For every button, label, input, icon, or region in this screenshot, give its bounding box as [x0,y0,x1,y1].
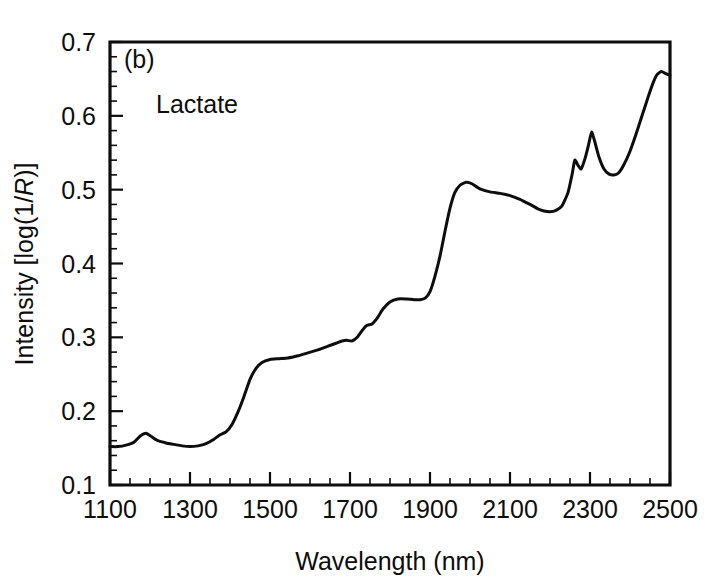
y-tick-label: 0.4 [61,250,96,278]
y-tick-label: 0.3 [61,323,96,351]
x-tick-label: 2100 [482,495,538,523]
x-tick-label: 1500 [242,495,298,523]
y-tick-label: 0.5 [61,176,96,204]
y-tick-label: 0.6 [61,102,96,130]
x-tick-label: 2500 [642,495,698,523]
x-tick-label: 1900 [402,495,458,523]
x-tick-label: 1100 [83,495,137,523]
y-tick-label: 0.2 [61,397,96,425]
series-annotation-label: Lactate [156,90,238,118]
x-tick-label: 2300 [562,495,618,523]
figure-panel-b: 11001300150017001900210023002500 0.10.20… [0,0,713,583]
y-tick-label: 0.7 [61,28,96,56]
spectrum-chart: 11001300150017001900210023002500 0.10.20… [0,0,713,583]
y-tick-label: 0.1 [61,471,96,499]
y-axis-title: Intensity [log(1/R)] [10,163,38,366]
x-tick-label: 1300 [162,495,218,523]
x-axis-title: Wavelength (nm) [295,547,484,575]
panel-label: (b) [124,45,155,73]
x-tick-label: 1700 [322,495,378,523]
